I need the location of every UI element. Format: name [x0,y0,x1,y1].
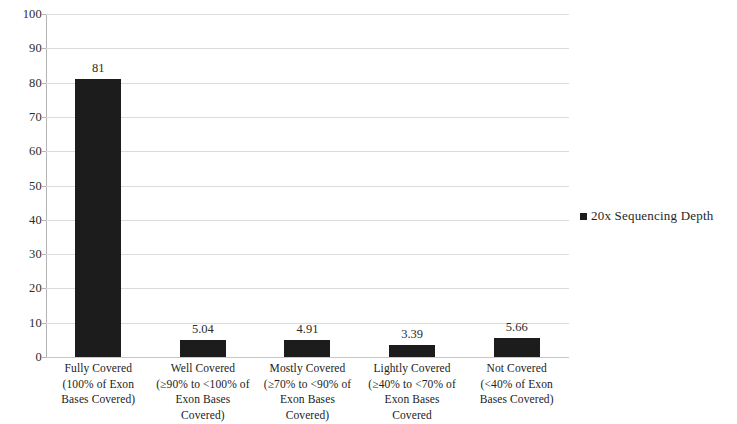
y-axis-tick-label: 30 [2,248,42,260]
y-axis-tick-label: 60 [2,145,42,157]
x-axis-category-label-line: Bases Covered) [46,392,151,408]
bar[interactable] [284,340,330,357]
x-axis-category-label-line: (≥90% to <100% of [151,377,256,393]
bar-value-label: 5.04 [192,323,214,336]
y-axis-tick-label: 80 [2,77,42,89]
x-axis-category-label: Mostly Covered(≥70% to <90% ofExon Bases… [255,361,360,423]
x-axis-category-label: Not Covered(<40% of ExonBases Covered) [464,361,569,408]
bar-group: 81 [46,14,151,357]
x-axis-category-label-line: Exon Bases [255,392,360,408]
x-axis-category-label-line: (≥40% to <70% of [360,377,465,393]
bar-group: 3.39 [360,14,465,357]
bar-value-label: 81 [92,62,105,75]
x-axis-category-label-line: Fully Covered [46,361,151,377]
x-axis-category-labels: Fully Covered(100% of ExonBases Covered)… [46,361,569,424]
y-axis-tick-label: 20 [2,282,42,294]
y-axis-tick-mark [41,357,46,358]
x-axis-category-label-line: Exon Bases [151,392,256,408]
x-axis-category-label-line: Covered) [151,408,256,424]
x-axis-category-label-line: Mostly Covered [255,361,360,377]
x-axis-category-label: Well Covered(≥90% to <100% ofExon BasesC… [151,361,256,423]
bar-group: 4.91 [255,14,360,357]
y-axis-tick-label: 10 [2,317,42,329]
chart-legend: 20x Sequencing Depth [580,209,713,223]
bar-chart: 1009080706050403020100 815.044.913.395.6… [0,0,737,424]
y-axis-tick-mark [41,288,46,289]
x-axis-category-label-line: (<40% of Exon [464,377,569,393]
y-axis-tick-label: 0 [2,351,42,363]
legend-swatch-icon [580,213,587,220]
bar-group: 5.04 [151,14,256,357]
y-axis-tick-mark [41,14,46,15]
bar-group: 5.66 [464,14,569,357]
y-axis-tick-mark [41,83,46,84]
gridline [46,357,569,358]
y-axis-tick-labels: 1009080706050403020100 [0,0,42,424]
bar[interactable] [75,79,121,357]
x-axis-category-label-line: Covered) [255,408,360,424]
y-axis-tick-label: 40 [2,214,42,226]
y-axis-tick-label: 50 [2,180,42,192]
x-axis-category-label-line: (100% of Exon [46,377,151,393]
legend-entry-label: 20x Sequencing Depth [591,209,713,223]
bar-value-label: 4.91 [297,323,319,336]
y-axis-tick-mark [41,117,46,118]
bar-value-label: 3.39 [401,328,423,341]
y-axis-tick-mark [41,186,46,187]
bar-value-label: 5.66 [506,321,528,334]
x-axis-category-label-line: Covered [360,408,465,424]
x-axis-category-label-line: Not Covered [464,361,569,377]
bar[interactable] [389,345,435,357]
x-axis-category-label: Lightly Covered(≥40% to <70% ofExon Base… [360,361,465,423]
y-axis-tick-mark [41,48,46,49]
y-axis-tick-label: 100 [2,8,42,20]
bar[interactable] [180,340,226,357]
x-axis-category-label-line: Bases Covered) [464,392,569,408]
y-axis-tick-mark [41,323,46,324]
y-axis-tick-label: 90 [2,42,42,54]
bar[interactable] [494,338,540,357]
y-axis-tick-mark [41,220,46,221]
y-axis-tick-label: 70 [2,111,42,123]
x-axis-category-label-line: (≥70% to <90% of [255,377,360,393]
plot-area: 815.044.913.395.66 [46,14,569,357]
x-axis-category-label: Fully Covered(100% of ExonBases Covered) [46,361,151,408]
y-axis-tick-mark [41,254,46,255]
x-axis-category-label-line: Lightly Covered [360,361,465,377]
x-axis-category-label-line: Well Covered [151,361,256,377]
x-axis-category-label-line: Exon Bases [360,392,465,408]
y-axis-tick-mark [41,151,46,152]
